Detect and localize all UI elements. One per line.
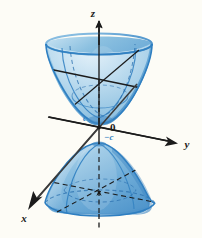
upper-vertex-label: c [83, 113, 87, 123]
lower-vertex-label: −c [104, 132, 113, 142]
origin-point [97, 126, 101, 130]
z-axis-label: z [90, 7, 96, 19]
x-axis-label: x [20, 212, 27, 224]
y-axis-label: y [183, 138, 190, 150]
hyperboloid-figure: z y x 0 c −c [0, 0, 202, 238]
figure-canvas: z y x 0 c −c [0, 0, 202, 238]
